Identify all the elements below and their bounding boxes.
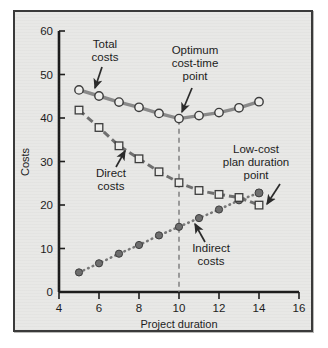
- total-costs-point: [215, 108, 223, 116]
- annotation-indirect-costs-arrow: [195, 224, 205, 242]
- direct-costs-point: [215, 191, 223, 199]
- annotation-total-costs-line2: costs: [92, 51, 119, 63]
- annotation-optimum-cost-time-point: Optimum cost-time point: [172, 44, 219, 112]
- direct-costs-point: [135, 155, 143, 163]
- indirect-costs-line: [79, 193, 259, 273]
- x-tick-label-14: 14: [253, 302, 266, 314]
- annotation-direct-costs-line2: costs: [98, 180, 125, 192]
- indirect-costs-point: [215, 206, 222, 213]
- y-tick-label-10: 10: [40, 243, 53, 255]
- direct-costs-point: [115, 142, 123, 150]
- total-costs-point: [255, 98, 263, 106]
- indirect-costs-point: [155, 232, 162, 239]
- indirect-costs-point: [195, 215, 202, 222]
- y-tick-label-20: 20: [40, 199, 53, 211]
- annotation-total-costs-arrow: [95, 67, 102, 88]
- annotation-optimum-line1: Optimum: [172, 44, 219, 56]
- total-costs-point: [155, 109, 163, 117]
- series-indirect-costs: [75, 189, 263, 276]
- y-tick-label-0: 0: [47, 286, 53, 298]
- indirect-costs-point: [95, 260, 102, 267]
- x-tick-labels: 4 6 8 10 12 14 16: [56, 302, 306, 314]
- total-costs-point: [135, 103, 143, 111]
- total-costs-point: [235, 104, 243, 112]
- cost-duration-chart: 60 50 40 30 20 10 0 4 6 8 10 12 14 16 Pr…: [15, 12, 311, 330]
- annotation-optimum-line3: point: [183, 70, 209, 82]
- annotation-direct-costs: Direct costs: [96, 151, 127, 192]
- indirect-costs-point: [255, 189, 263, 197]
- direct-costs-point: [155, 168, 163, 176]
- y-tick-labels: 60 50 40 30 20 10 0: [40, 25, 53, 298]
- direct-costs-point: [95, 124, 103, 132]
- annotation-indirect-costs: Indirect costs: [192, 224, 231, 267]
- annotation-lowcost-line3: point: [244, 169, 270, 181]
- y-tick-label-60: 60: [40, 25, 53, 37]
- annotation-lowcost-line1: Low-cost: [233, 143, 280, 155]
- total-costs-point: [195, 111, 203, 119]
- annotation-indirect-costs-line2: costs: [198, 255, 225, 267]
- annotation-direct-costs-line1: Direct: [96, 167, 127, 179]
- x-tick-label-6: 6: [96, 302, 102, 314]
- annotation-total-costs: Total costs: [92, 38, 119, 88]
- series-total-costs: [75, 86, 263, 123]
- figure-panel: 60 50 40 30 20 10 0 4 6 8 10 12 14 16 Pr…: [13, 10, 313, 332]
- annotation-total-costs-line1: Total: [93, 38, 117, 50]
- direct-costs-point: [195, 187, 203, 195]
- optimum-cost-time-point-marker: [175, 114, 183, 122]
- annotation-optimum-line2: cost-time: [172, 57, 219, 69]
- annotation-indirect-costs-line1: Indirect: [192, 242, 231, 254]
- x-tick-label-8: 8: [136, 302, 142, 314]
- annotation-direct-costs-arrow: [116, 151, 125, 167]
- y-tick-label-30: 30: [40, 156, 53, 168]
- x-tick-label-16: 16: [293, 302, 306, 314]
- direct-costs-point: [255, 201, 263, 209]
- direct-costs-point: [175, 179, 183, 187]
- total-costs-line: [79, 90, 259, 119]
- annotation-optimum-arrow: [182, 88, 192, 112]
- x-tick-label-12: 12: [213, 302, 226, 314]
- y-tick-label-50: 50: [40, 69, 53, 81]
- x-tick-label-10: 10: [173, 302, 186, 314]
- y-axis-title: Costs: [19, 147, 31, 176]
- indirect-costs-point: [175, 223, 182, 230]
- annotation-lowcost-line2: plan duration: [223, 156, 290, 168]
- total-costs-point: [75, 86, 83, 94]
- indirect-costs-point: [75, 269, 82, 276]
- indirect-costs-point: [135, 241, 142, 248]
- direct-costs-point: [75, 106, 83, 114]
- total-costs-point: [115, 98, 123, 106]
- total-costs-point: [95, 92, 103, 100]
- annotation-lowcost-arrow: [267, 184, 280, 204]
- direct-costs-point: [235, 194, 243, 202]
- indirect-costs-point: [115, 250, 122, 257]
- y-tick-label-40: 40: [40, 112, 53, 124]
- x-tick-label-4: 4: [56, 302, 63, 314]
- x-axis-title: Project duration: [140, 318, 217, 330]
